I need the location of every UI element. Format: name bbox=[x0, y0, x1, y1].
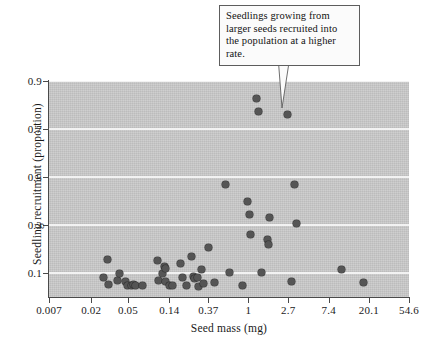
y-axis-title: Seedling recruitment (proportion) bbox=[31, 74, 43, 294]
y-axis-line bbox=[48, 80, 49, 298]
data-point bbox=[154, 257, 161, 264]
panel-texture bbox=[49, 81, 409, 297]
plot-panel bbox=[49, 81, 409, 297]
data-point bbox=[244, 198, 251, 205]
x-tick-mark bbox=[248, 298, 249, 303]
data-point bbox=[360, 279, 367, 286]
gridline-y-0-5 bbox=[49, 176, 409, 178]
data-point bbox=[211, 279, 218, 286]
data-point bbox=[100, 274, 107, 281]
x-axis-line bbox=[48, 297, 410, 298]
x-tick-mark bbox=[329, 298, 330, 303]
data-point bbox=[258, 269, 265, 276]
data-point bbox=[183, 282, 190, 289]
x-tick-label: 54.6 bbox=[379, 305, 425, 316]
gridline-y-0-3 bbox=[49, 224, 409, 226]
data-point bbox=[198, 266, 205, 273]
data-point bbox=[116, 270, 123, 277]
data-point bbox=[288, 278, 295, 285]
y-tick-mark bbox=[43, 129, 49, 130]
y-tick-mark bbox=[43, 177, 49, 178]
data-point bbox=[222, 181, 229, 188]
scatter-plot-figure: 0.90.70.50.30.1 0.0070.020.050.140.3712.… bbox=[0, 0, 425, 343]
data-point bbox=[177, 260, 184, 267]
x-tick-mark bbox=[169, 298, 170, 303]
y-tick-mark bbox=[43, 81, 49, 82]
data-point bbox=[179, 274, 186, 281]
data-point bbox=[265, 241, 272, 248]
x-tick-mark bbox=[49, 298, 50, 303]
data-point bbox=[291, 181, 298, 188]
data-point bbox=[114, 277, 121, 284]
data-point bbox=[104, 256, 111, 263]
annotation-text: Seedlings growing from larger seeds recr… bbox=[226, 10, 353, 60]
x-tick-mark bbox=[288, 298, 289, 303]
y-tick-mark bbox=[43, 225, 49, 226]
data-point bbox=[200, 280, 207, 287]
x-tick-mark bbox=[369, 298, 370, 303]
data-point bbox=[226, 269, 233, 276]
data-point bbox=[247, 231, 254, 238]
data-point bbox=[246, 211, 253, 218]
data-point bbox=[162, 265, 169, 272]
data-point bbox=[205, 244, 212, 251]
data-point bbox=[284, 111, 291, 118]
gridline-y-0-7 bbox=[49, 128, 409, 130]
annotation-callout: Seedlings growing from larger seeds recr… bbox=[219, 5, 360, 66]
x-tick-mark bbox=[91, 298, 92, 303]
data-point bbox=[239, 282, 246, 289]
data-point bbox=[293, 220, 300, 227]
x-tick-mark bbox=[409, 298, 410, 303]
y-tick-mark bbox=[43, 273, 49, 274]
data-point bbox=[105, 281, 112, 288]
x-tick-mark bbox=[128, 298, 129, 303]
x-axis-title: Seed mass (mg) bbox=[49, 322, 409, 334]
gridline-y-0-9 bbox=[49, 81, 409, 82]
data-point bbox=[132, 282, 139, 289]
data-point bbox=[169, 282, 176, 289]
data-point bbox=[188, 253, 195, 260]
data-point bbox=[266, 214, 273, 221]
x-tick-mark bbox=[208, 298, 209, 303]
data-point bbox=[139, 282, 146, 289]
